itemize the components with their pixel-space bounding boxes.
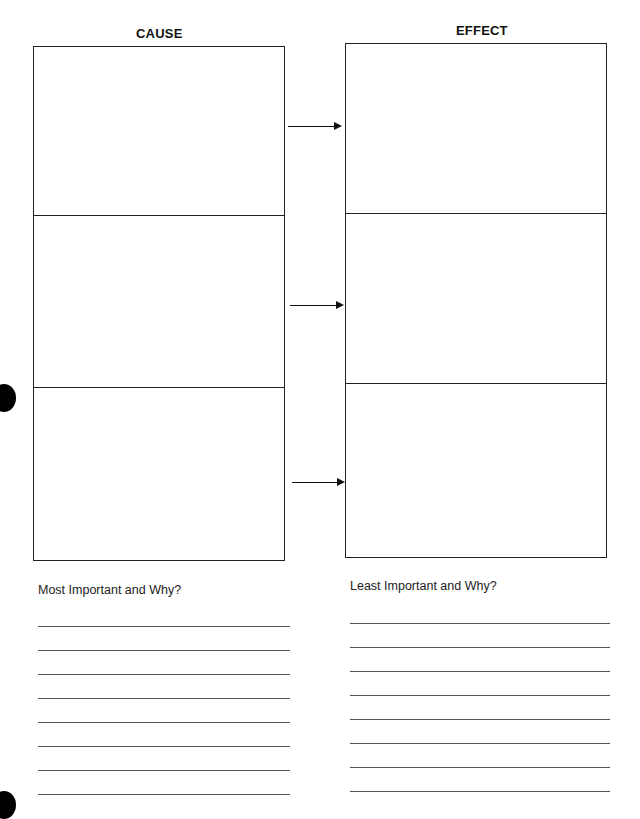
writing-line-left[interactable] [38,794,290,795]
most-important-prompt: Most Important and Why? [38,583,181,597]
hole-punch-mark [0,384,16,412]
effect-divider-1 [345,213,607,214]
writing-line-left[interactable] [38,698,290,699]
writing-line-right[interactable] [350,623,610,624]
writing-line-right[interactable] [350,719,610,720]
writing-line-right[interactable] [350,791,610,792]
writing-line-right[interactable] [350,671,610,672]
cause-divider-1 [33,215,285,216]
effect-title: EFFECT [456,23,508,38]
hole-punch-mark [0,791,16,819]
cause-title: CAUSE [136,26,183,41]
cause-divider-2 [33,387,285,388]
writing-line-right[interactable] [350,647,610,648]
effect-divider-2 [345,383,607,384]
writing-line-left[interactable] [38,746,290,747]
writing-line-left[interactable] [38,770,290,771]
effect-box [345,43,607,558]
arrow-right-icon [288,126,340,127]
writing-line-left[interactable] [38,674,290,675]
writing-line-right[interactable] [350,695,610,696]
writing-line-right[interactable] [350,767,610,768]
arrow-right-icon [290,305,342,306]
writing-line-right[interactable] [350,743,610,744]
arrow-right-icon [292,482,343,483]
writing-line-left[interactable] [38,650,290,651]
writing-line-left[interactable] [38,626,290,627]
cause-box [33,46,285,561]
writing-line-left[interactable] [38,722,290,723]
least-important-prompt: Least Important and Why? [350,579,497,593]
